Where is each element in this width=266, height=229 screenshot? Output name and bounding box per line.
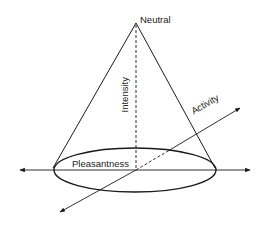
activity-axis-front: [60, 170, 136, 212]
cone-graphic: [0, 0, 266, 229]
neutral-label: Neutral: [140, 15, 171, 25]
activity-axis-hidden: [136, 151, 168, 170]
intensity-label: Intensity: [120, 70, 130, 120]
activity-axis-back: [168, 108, 240, 151]
emotion-cone-diagram: Neutral Intensity Activity Pleasantness: [0, 0, 266, 229]
pleasantness-label: Pleasantness: [72, 159, 129, 169]
